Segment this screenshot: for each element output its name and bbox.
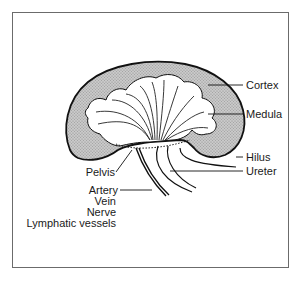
vessel-bundle <box>136 148 169 196</box>
diagram-canvas <box>0 0 300 281</box>
label-ureter: Ureter <box>246 166 277 177</box>
pelvis-leader <box>116 150 132 172</box>
kidney-diagram: Cortex Medula Hilus Ureter Pelvis Artery… <box>0 0 300 281</box>
label-lymphatic-vessels: Lymphatic vessels <box>27 218 116 229</box>
label-pelvis: Pelvis <box>86 167 115 178</box>
ureter <box>157 146 196 192</box>
label-hilus: Hilus <box>246 152 270 163</box>
label-medula: Medula <box>246 109 282 120</box>
label-cortex: Cortex <box>246 80 278 91</box>
